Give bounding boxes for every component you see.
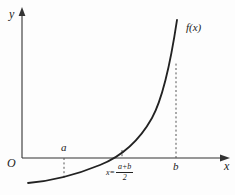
curve-label-fx: f(x): [186, 22, 201, 33]
x-axis-label: x: [224, 160, 229, 172]
x-mark-label-a: a: [61, 142, 67, 153]
origin-label: O: [7, 157, 16, 169]
midpoint-numerator: a+b: [116, 163, 133, 171]
x-mark-label-b: b: [173, 161, 179, 172]
y-axis-label: y: [9, 8, 14, 20]
y-axis-arrowhead: [19, 7, 26, 16]
x-mark-label-midpoint: x= a+b 2: [106, 163, 133, 182]
midpoint-equation-prefix: x=: [106, 169, 115, 177]
midpoint-fraction: a+b 2: [116, 163, 133, 182]
function-graph-figure: y O x f(x) a b x= a+b 2: [0, 0, 235, 195]
midpoint-denominator: 2: [121, 174, 129, 182]
